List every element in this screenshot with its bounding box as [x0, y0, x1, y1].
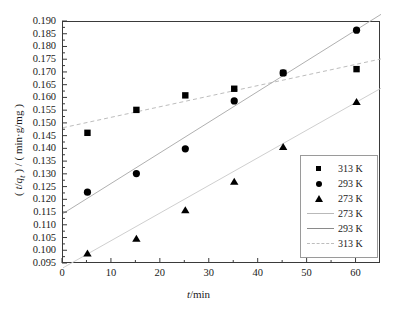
y-tick-label: 0.100 — [33, 245, 56, 256]
y-tick-label: 0.165 — [33, 80, 56, 91]
y-tick-label: 0.125 — [33, 182, 56, 193]
legend-entry-label: 313 K — [335, 164, 363, 174]
data-point-273-k — [230, 178, 238, 185]
legend-entry: 313 K — [305, 161, 373, 176]
y-axis-title-text: ( t/qt ) / ( min·g/mg ) — [12, 104, 24, 196]
x-tick-label: 60 — [350, 268, 361, 279]
legend-box: 313 K293 K273 K273 K293 K313 K — [300, 155, 378, 258]
data-point-293-k — [231, 97, 238, 104]
x-tick-label: 0 — [59, 268, 64, 279]
y-tick-label: 0.155 — [33, 105, 56, 116]
y-tick-label: 0.160 — [33, 92, 56, 103]
data-point-273-k — [132, 235, 140, 242]
data-point-273-k — [279, 143, 287, 150]
y-tick-label: 0.110 — [33, 220, 56, 231]
x-tick-label: 20 — [155, 268, 166, 279]
data-point-313-k — [84, 130, 90, 136]
legend-key — [305, 161, 335, 176]
y-tick-label: 0.170 — [33, 67, 56, 78]
legend-solid-light-line-icon — [307, 213, 334, 214]
legend-solid-dark-line-icon — [307, 228, 334, 229]
legend-entry-label: 273 K — [335, 209, 363, 219]
data-point-313-k — [231, 86, 237, 92]
y-tick-label: 0.150 — [33, 118, 56, 129]
x-tick-label: 10 — [106, 268, 117, 279]
legend-triangle-marker-icon — [315, 195, 323, 202]
x-tick-label: 50 — [301, 268, 312, 279]
x-axis-title: t/min — [0, 288, 397, 300]
y-tick-label: 0.145 — [33, 131, 56, 142]
data-point-293-k — [353, 27, 360, 34]
data-point-273-k — [181, 206, 189, 213]
legend-key — [305, 176, 335, 191]
legend-key — [305, 236, 335, 251]
y-tick-label: 0.135 — [33, 156, 56, 167]
x-axis-tick-labels: 0102030405060 — [0, 268, 397, 282]
data-point-293-k — [280, 69, 287, 76]
y-tick-label: 0.175 — [33, 54, 56, 65]
x-tick-label: 40 — [252, 268, 263, 279]
x-axis-title-text: t/min — [187, 288, 210, 300]
y-tick-label: 0.105 — [33, 233, 56, 244]
legend-square-marker-icon — [316, 166, 321, 171]
y-tick-label: 0.180 — [33, 41, 56, 52]
legend-entry-label: 273 K — [335, 194, 363, 204]
legend-dashed-line-icon — [307, 243, 334, 244]
data-point-313-k — [133, 107, 139, 113]
data-point-293-k — [182, 145, 189, 152]
data-point-313-k — [353, 66, 359, 72]
data-point-273-k — [83, 249, 91, 256]
y-tick-label: 0.190 — [33, 16, 56, 27]
legend-key — [305, 191, 335, 206]
data-point-293-k — [84, 189, 91, 196]
legend-entry: 293 K — [305, 221, 373, 236]
legend-entry: 293 K — [305, 176, 373, 191]
legend-key — [305, 206, 335, 221]
y-tick-label: 0.185 — [33, 29, 56, 40]
legend-entry: 273 K — [305, 206, 373, 221]
data-point-313-k — [182, 92, 188, 98]
x-tick-label: 30 — [204, 268, 215, 279]
legend-key — [305, 221, 335, 236]
legend-entry: 273 K — [305, 191, 373, 206]
y-tick-label: 0.140 — [33, 143, 56, 154]
kinetics-chart-figure: 0.1900.1850.1800.1750.1700.1650.1600.155… — [0, 0, 397, 312]
legend-circle-marker-icon — [316, 181, 322, 187]
y-tick-label: 0.120 — [33, 194, 56, 205]
y-tick-label: 0.115 — [33, 207, 56, 218]
y-tick-label: 0.095 — [33, 258, 56, 269]
legend-entry-label: 293 K — [335, 179, 363, 189]
fit-line-313-k — [63, 59, 381, 128]
y-axis-title: ( t/qt ) / ( min·g/mg ) — [12, 60, 28, 240]
data-point-293-k — [133, 170, 140, 177]
legend-entry: 313 K — [305, 236, 373, 251]
y-tick-label: 0.130 — [33, 169, 56, 180]
legend-entry-label: 293 K — [335, 224, 363, 234]
legend-entry-label: 313 K — [335, 239, 363, 249]
data-point-273-k — [352, 98, 360, 105]
